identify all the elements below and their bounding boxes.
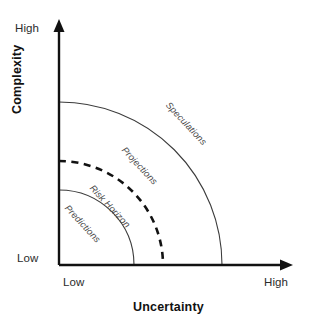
y-axis-arrow-icon [54, 19, 65, 32]
y-axis-title: Complexity [10, 45, 24, 114]
x-axis-title: Uncertainty [133, 300, 204, 314]
risk-horizon-diagram: High Low Low High Complexity Uncertainty… [0, 0, 313, 324]
x-axis-low-label: Low [63, 276, 84, 288]
x-axis-arrow-icon [280, 260, 293, 271]
x-axis-high-label: High [264, 276, 288, 288]
y-axis-high-label: High [15, 22, 39, 34]
y-axis-low-label: Low [17, 252, 38, 264]
arc-speculations-boundary [59, 102, 222, 265]
